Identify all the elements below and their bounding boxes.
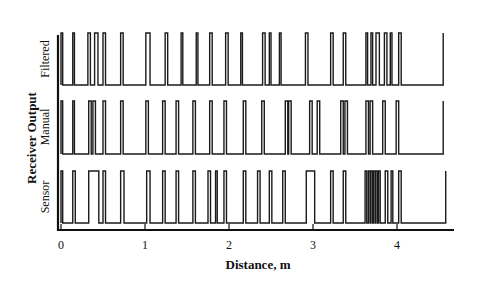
axes-frame (58, 35, 454, 230)
x-tick-label: 2 (226, 238, 232, 252)
trace-filtered (61, 33, 443, 85)
trace-manual (61, 101, 443, 154)
x-tick-label: 1 (142, 238, 148, 252)
series-label-sensor: Sensor (38, 181, 52, 214)
trace-sensor (61, 171, 446, 223)
series-label-filtered: Filtered (38, 40, 52, 77)
pulse-trace-chart: 01234 Distance, m Receiver Output Filter… (0, 0, 477, 285)
series-label-manual: Manual (38, 108, 52, 145)
x-axis-label: Distance, m (226, 257, 291, 272)
x-tick-label: 4 (394, 238, 400, 252)
x-tick-label: 3 (310, 238, 316, 252)
x-tick-label: 0 (58, 238, 64, 252)
x-ticks: 01234 (58, 224, 400, 252)
traces-group (61, 33, 446, 223)
y-axis-label: Receiver Output (24, 91, 39, 183)
